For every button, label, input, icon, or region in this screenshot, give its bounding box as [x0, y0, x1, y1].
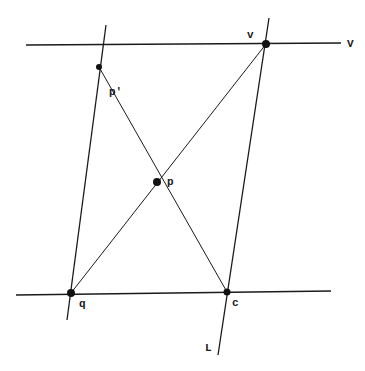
point-p	[153, 178, 161, 186]
line-L	[218, 18, 269, 355]
label-V: V	[347, 38, 354, 50]
label-v: v	[247, 29, 254, 41]
line-pprime-c	[99, 67, 227, 292]
point-c	[224, 289, 231, 296]
point-p-prime	[96, 64, 102, 70]
label-p-prime: p'	[109, 86, 122, 98]
point-v	[262, 40, 270, 48]
label-p: p	[167, 176, 174, 188]
label-L: L	[205, 342, 212, 354]
point-q	[67, 289, 75, 297]
line-V	[26, 43, 341, 45]
line-q-v	[71, 44, 266, 293]
label-c: c	[232, 297, 239, 309]
label-q: q	[79, 298, 86, 310]
line-bottom	[16, 291, 331, 295]
projective-diagram: v V p' p q c L	[0, 0, 365, 371]
